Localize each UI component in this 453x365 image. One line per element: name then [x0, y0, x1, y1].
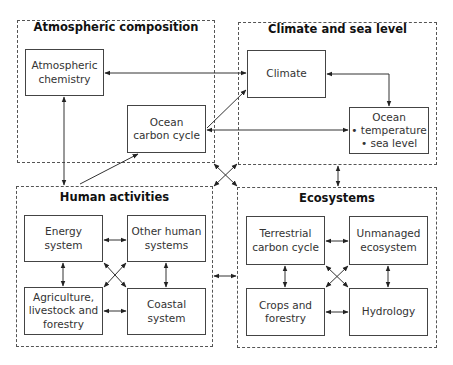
node-atmospheric-chemistry: Atmospheric chemistry	[25, 49, 104, 96]
node-agriculture-livestock-forestry: Agriculture, livestock and forestry	[24, 287, 103, 335]
node-label: Climate	[266, 67, 306, 80]
group-title-ecosystems: Ecosystems	[238, 191, 436, 205]
node-label: Hydrology	[362, 305, 416, 318]
node-unmanaged-ecosystem: Unmanaged ecosystem	[349, 216, 428, 265]
node-label: Unmanaged ecosystem	[357, 227, 421, 253]
node-label: Ocean • temperature • sea level	[351, 111, 427, 150]
node-label: Energy system	[45, 225, 83, 251]
group-title-climate: Climate and sea level	[239, 22, 436, 36]
node-label: Agriculture, livestock and forestry	[29, 291, 98, 330]
node-terrestrial-carbon-cycle: Terrestrial carbon cycle	[246, 216, 325, 265]
node-climate: Climate	[247, 50, 326, 98]
node-energy-system: Energy system	[24, 215, 103, 262]
node-other-human-systems: Other human systems	[127, 215, 206, 262]
node-label: Other human systems	[132, 225, 202, 251]
node-ocean-carbon-cycle: Ocean carbon cycle	[127, 105, 206, 153]
node-ocean-temperature-sea-level: Ocean • temperature • sea level	[349, 107, 429, 154]
group-title-atmospheric: Atmospheric composition	[18, 20, 214, 34]
node-label: Coastal system	[147, 298, 186, 324]
node-hydrology: Hydrology	[349, 288, 428, 336]
node-crops-forestry: Crops and forestry	[246, 288, 325, 336]
node-label: Atmospheric chemistry	[31, 59, 97, 85]
node-label: Terrestrial carbon cycle	[252, 227, 319, 253]
node-coastal-system: Coastal system	[127, 288, 206, 335]
node-label: Crops and forestry	[259, 299, 312, 325]
group-title-human: Human activities	[17, 190, 212, 204]
node-label: Ocean carbon cycle	[133, 116, 200, 142]
